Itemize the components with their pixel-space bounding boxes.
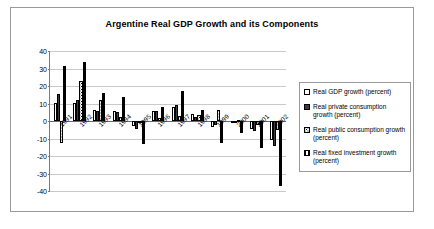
y-tick-label: -40 <box>37 188 47 195</box>
legend-label: Real GDP growth (percent) <box>313 88 391 97</box>
legend-swatch-icon <box>304 89 310 95</box>
legend-swatch-icon <box>304 150 310 156</box>
chart-frame: Argentine Real GDP Growth and its Compon… <box>10 7 414 212</box>
y-tick-label: 20 <box>39 83 47 90</box>
y-tick-label: -20 <box>37 153 47 160</box>
y-tick-label: -30 <box>37 170 47 177</box>
chart-legend: Real GDP growth (percent)Real private co… <box>299 82 411 172</box>
y-tick-mark <box>48 191 50 192</box>
legend-label: Real private consumption growth (percent… <box>313 103 406 120</box>
y-tick-label: -10 <box>37 135 47 142</box>
legend-item[interactable]: Real public consumption growth (percent) <box>304 126 406 143</box>
bar <box>63 66 66 121</box>
legend-label: Real fixed investment growth (percent) <box>313 149 406 166</box>
bar <box>83 62 86 121</box>
legend-item[interactable]: Real fixed investment growth (percent) <box>304 149 406 166</box>
bar <box>279 121 282 186</box>
y-tick-label: 40 <box>39 48 47 55</box>
bar <box>57 94 60 121</box>
y-tick-label: 0 <box>43 118 47 125</box>
gridline <box>50 191 286 192</box>
legend-label: Real public consumption growth (percent) <box>313 126 406 143</box>
legend-swatch-icon <box>304 104 310 110</box>
legend-swatch-icon <box>304 127 310 133</box>
legend-item[interactable]: Real private consumption growth (percent… <box>304 103 406 120</box>
legend-item[interactable]: Real GDP growth (percent) <box>304 88 406 97</box>
chart-title: Argentine Real GDP Growth and its Compon… <box>11 19 413 29</box>
y-tick-label: 10 <box>39 100 47 107</box>
y-tick-label: 30 <box>39 65 47 72</box>
